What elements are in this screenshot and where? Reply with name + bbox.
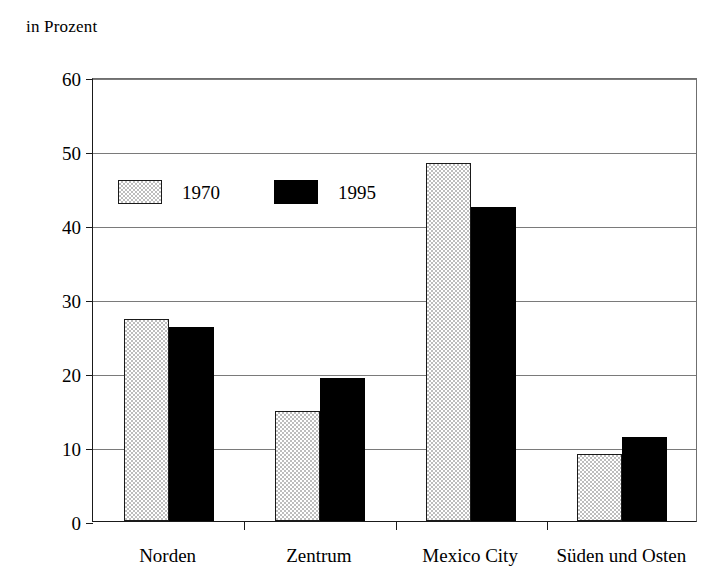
y-axis-tick-label: 30 — [62, 292, 81, 311]
y-axis-tick — [86, 301, 93, 302]
bar-1995-mexico-city — [471, 207, 516, 522]
y-axis-tick-label: 60 — [62, 70, 81, 89]
y-axis-tick — [86, 523, 93, 524]
x-axis-label-zentrum: Zentrum — [286, 545, 351, 566]
legend-swatch-1970 — [118, 180, 162, 204]
bar-1970-mexico-city — [426, 163, 471, 521]
legend-swatch-1995 — [274, 180, 318, 204]
x-axis-label-norden: Norden — [139, 545, 196, 566]
x-axis-separator — [547, 521, 548, 530]
y-axis-tick-label: 10 — [62, 440, 81, 459]
y-axis-tick — [86, 79, 93, 80]
gridline — [93, 153, 696, 154]
bar-1995-süden-und-osten — [622, 437, 667, 521]
legend-entry-1995: 1995 — [274, 180, 376, 204]
x-axis-separator — [244, 521, 245, 530]
bar-1970-zentrum — [275, 411, 320, 521]
y-axis-tick — [86, 375, 93, 376]
legend-label-1995: 1995 — [338, 183, 376, 202]
gridline — [93, 301, 696, 302]
y-axis-tick — [86, 153, 93, 154]
y-axis-tick — [86, 227, 93, 228]
y-axis-tick-label: 40 — [62, 218, 81, 237]
chart-title: in Prozent — [26, 17, 97, 37]
y-axis-tick-label: 0 — [72, 514, 82, 533]
y-axis-tick — [86, 449, 93, 450]
bar-1995-zentrum — [320, 378, 365, 521]
bar-1995-norden — [169, 327, 214, 521]
x-axis-label-mexico-city: Mexico City — [422, 545, 518, 566]
y-axis-tick-label: 20 — [62, 366, 81, 385]
bar-chart: in Prozent 0102030405060 NordenZentrumMe… — [0, 0, 724, 579]
chart-legend: 1970 1995 — [118, 180, 376, 204]
x-axis-label-süden-und-osten: Süden und Osten — [556, 545, 686, 566]
plot-area: 0102030405060 — [92, 78, 697, 522]
bar-1970-süden-und-osten — [577, 454, 622, 521]
legend-label-1970: 1970 — [182, 183, 220, 202]
gridline — [93, 79, 696, 80]
gridline — [93, 227, 696, 228]
x-axis-separator — [396, 521, 397, 530]
legend-entry-1970: 1970 — [118, 180, 220, 204]
bar-1970-norden — [124, 319, 169, 521]
y-axis-tick-label: 50 — [62, 144, 81, 163]
